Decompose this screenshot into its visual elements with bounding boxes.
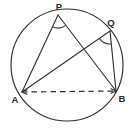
geometry-figure: P Q A B — [0, 0, 133, 132]
segment-AB-dashed — [22, 91, 116, 92]
vertex-label-A: A — [12, 94, 19, 105]
angle-arc-at-Q — [99, 38, 111, 44]
circumscribed-circle — [11, 9, 123, 121]
angle-arc-at-P — [52, 25, 65, 28]
segment-QB — [110, 31, 116, 91]
vertex-label-P: P — [56, 1, 63, 12]
vertex-label-B: B — [119, 93, 126, 104]
geometry-canvas: P Q A B — [0, 0, 133, 132]
segment-QA — [22, 31, 110, 92]
vertex-label-Q: Q — [107, 17, 114, 28]
